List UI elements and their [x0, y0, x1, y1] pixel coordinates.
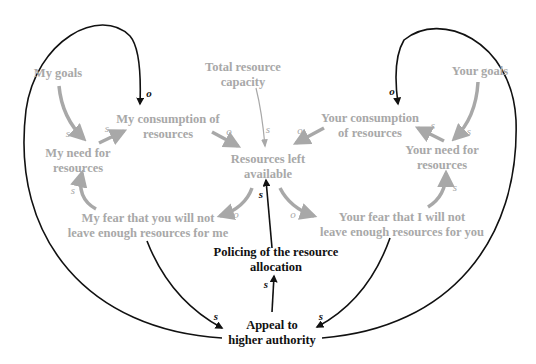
node-label: leave enough resources for you [320, 225, 484, 240]
link-capacity-to-resources-left [256, 88, 265, 146]
node-your-goals: Your goals [452, 64, 508, 79]
polarity-resources-fear-right: o [290, 209, 296, 220]
polarity-appeal-consumption-left: o [146, 88, 152, 99]
polarity-goals-need-right: s [467, 126, 471, 137]
node-label: My need for [45, 146, 110, 161]
link-appeal-to-policing [272, 276, 274, 312]
node-label: Resources left [231, 152, 305, 167]
link-resources-to-your-fear [280, 188, 314, 216]
polarity-consumption-resources-left: o [226, 126, 232, 137]
polarity-capacity-resources: s [266, 124, 270, 135]
node-total-resource-capacity: Total resource capacity [205, 60, 281, 90]
node-policing-of-resource-allocation: Policing of the resource allocation [214, 245, 339, 275]
polarity-policing-resources: s [259, 189, 263, 200]
node-label: Your goals [452, 64, 508, 79]
node-your-consumption-of-resources: Your consumption of resources [321, 111, 419, 141]
polarity-fear-appeal-right: s [319, 311, 323, 322]
link-my-goals-to-my-need [59, 86, 84, 139]
node-label: leave enough resources for me [68, 226, 228, 241]
polarity-resources-fear-left: o [233, 209, 239, 220]
causal-loop-diagram: My goals My need for resources My consum… [0, 0, 536, 364]
node-label: Your fear that I will not [320, 210, 484, 225]
polarity-appeal-consumption-right: o [389, 86, 395, 97]
node-label: My consumption of [116, 112, 219, 127]
link-policing-to-resources-left [266, 180, 272, 248]
polarity-fear-appeal-left: s [214, 311, 218, 322]
node-label: allocation [214, 260, 339, 275]
node-label: higher authority [228, 333, 316, 348]
polarity-fear-need-left: s [71, 185, 75, 196]
node-label: My fear that you will not [68, 211, 228, 226]
node-label: resources [116, 127, 219, 142]
node-label: Total resource [205, 60, 281, 75]
node-my-consumption-of-resources: My consumption of resources [116, 112, 219, 142]
node-appeal-to-higher-authority: Appeal to higher authority [228, 318, 316, 348]
node-label: capacity [205, 75, 281, 90]
node-label: available [231, 167, 305, 182]
link-my-fear-to-my-need [81, 173, 96, 209]
node-my-goals: My goals [34, 66, 82, 81]
link-your-fear-to-your-need [428, 173, 446, 207]
node-my-need-for-resources: My need for resources [45, 146, 110, 176]
node-label: Your consumption [321, 111, 419, 126]
node-label: Appeal to [228, 318, 316, 333]
polarity-goals-need-left: s [66, 128, 70, 139]
node-label: resources [405, 158, 478, 173]
node-label: Policing of the resource [214, 245, 339, 260]
polarity-consumption-resources-right: o [297, 125, 303, 136]
node-your-fear: Your fear that I will not leave enough r… [320, 210, 484, 240]
polarity-need-consumption-right: s [431, 120, 435, 131]
node-your-need-for-resources: Your need for resources [405, 143, 478, 173]
polarity-fear-need-right: s [453, 182, 457, 193]
node-label: of resources [321, 126, 419, 141]
node-my-fear: My fear that you will not leave enough r… [68, 211, 228, 241]
node-resources-left-available: Resources left available [231, 152, 305, 182]
polarity-need-consumption-left: s [105, 123, 109, 134]
node-label: resources [45, 161, 110, 176]
link-my-fear-to-appeal [147, 241, 222, 328]
polarity-appeal-policing: s [264, 279, 268, 290]
node-label: Your need for [405, 143, 478, 158]
node-label: My goals [34, 66, 82, 81]
